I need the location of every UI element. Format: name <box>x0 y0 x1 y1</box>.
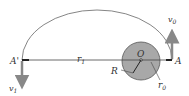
label-v1-sub: 1 <box>14 87 18 94</box>
label-v1: v1 <box>9 84 17 94</box>
label-r1-sub: 1 <box>81 58 85 65</box>
label-a: A <box>174 56 182 66</box>
label-a-prime: A' <box>9 56 19 66</box>
label-v0-sub: 0 <box>173 18 177 25</box>
label-v0: v0 <box>168 15 177 25</box>
orbit-diagram: A' A O r1 R r0 v0 v1 <box>0 0 189 96</box>
label-r0: r0 <box>158 80 166 91</box>
label-r0-sub: 0 <box>162 84 166 91</box>
label-o: O <box>137 49 145 59</box>
label-r1: r1 <box>77 54 85 65</box>
label-radius: R <box>110 66 118 76</box>
